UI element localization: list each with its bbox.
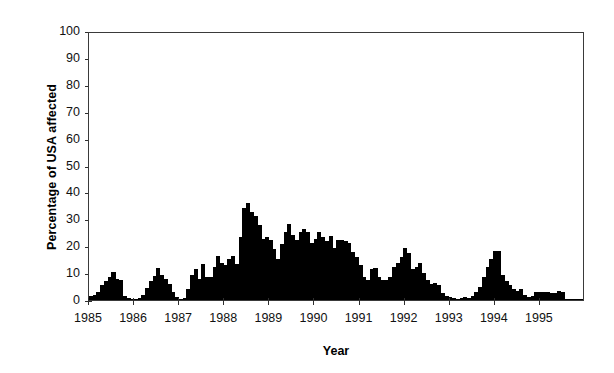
bar bbox=[516, 291, 520, 300]
bar bbox=[194, 269, 198, 300]
bar bbox=[531, 296, 535, 300]
bar bbox=[366, 280, 370, 300]
bar bbox=[403, 248, 407, 300]
bar bbox=[317, 232, 321, 300]
bar bbox=[422, 273, 426, 300]
bar bbox=[501, 275, 505, 300]
bar bbox=[385, 280, 389, 300]
bar bbox=[508, 285, 512, 300]
bar bbox=[437, 285, 441, 300]
bar bbox=[340, 240, 344, 300]
bar bbox=[123, 296, 127, 300]
bar bbox=[463, 297, 467, 300]
bar bbox=[284, 232, 288, 300]
x-tick-mark bbox=[133, 298, 134, 305]
bar bbox=[388, 277, 392, 300]
bar bbox=[572, 299, 576, 300]
bar bbox=[478, 287, 482, 300]
bar bbox=[93, 295, 97, 300]
bar bbox=[89, 296, 93, 300]
bar bbox=[272, 249, 276, 300]
bar bbox=[227, 259, 231, 300]
bar bbox=[407, 253, 411, 300]
bar bbox=[568, 299, 572, 300]
bar bbox=[325, 241, 329, 300]
bar bbox=[269, 240, 273, 300]
y-tick-label: 20 bbox=[36, 240, 80, 253]
y-tick-label: 10 bbox=[36, 267, 80, 280]
x-axis-title: Year bbox=[88, 344, 584, 358]
x-tick-mark bbox=[404, 298, 405, 305]
bar bbox=[512, 289, 516, 300]
bar bbox=[542, 292, 546, 300]
bar bbox=[489, 259, 493, 300]
bar bbox=[579, 299, 583, 300]
bar bbox=[119, 280, 123, 300]
bar bbox=[534, 292, 538, 300]
bar bbox=[332, 248, 336, 300]
bar bbox=[549, 293, 553, 300]
bar bbox=[493, 251, 497, 300]
x-tick-mark bbox=[178, 298, 179, 305]
plot-area bbox=[88, 32, 584, 301]
bar bbox=[220, 263, 224, 300]
bar bbox=[171, 292, 175, 300]
bar bbox=[145, 288, 149, 300]
bar bbox=[302, 229, 306, 300]
bar bbox=[362, 277, 366, 300]
y-tick-label: 0 bbox=[36, 294, 80, 307]
bar bbox=[418, 263, 422, 300]
y-tick-label: 80 bbox=[36, 79, 80, 92]
bar bbox=[201, 264, 205, 300]
bar bbox=[523, 295, 527, 300]
bar bbox=[224, 265, 228, 300]
bar bbox=[231, 256, 235, 300]
bar bbox=[276, 259, 280, 300]
bar bbox=[126, 298, 130, 300]
bar bbox=[179, 299, 183, 300]
x-tick-label: 1995 bbox=[512, 312, 566, 325]
bar bbox=[452, 298, 456, 300]
bar bbox=[134, 299, 138, 300]
bar bbox=[471, 296, 475, 300]
bar bbox=[295, 240, 299, 300]
bar bbox=[415, 267, 419, 300]
bar bbox=[527, 297, 531, 300]
bar bbox=[519, 289, 523, 300]
x-tick-mark bbox=[223, 298, 224, 305]
bar bbox=[198, 279, 202, 300]
bar-series bbox=[89, 33, 583, 300]
x-tick-mark bbox=[449, 298, 450, 305]
bar bbox=[433, 283, 437, 300]
bar bbox=[486, 267, 490, 300]
bar bbox=[314, 239, 318, 300]
bar bbox=[96, 292, 100, 300]
bar bbox=[564, 299, 568, 300]
bar bbox=[321, 237, 325, 300]
bar bbox=[497, 251, 501, 300]
bar bbox=[100, 285, 104, 300]
bar bbox=[108, 277, 112, 300]
bar bbox=[370, 269, 374, 300]
y-tick-label: 70 bbox=[36, 106, 80, 119]
x-tick-mark bbox=[494, 298, 495, 305]
bar bbox=[168, 284, 172, 300]
bar bbox=[115, 279, 119, 300]
y-tick-label: 30 bbox=[36, 213, 80, 226]
bar bbox=[291, 235, 295, 300]
bar bbox=[265, 237, 269, 300]
bar bbox=[460, 298, 464, 300]
bar bbox=[190, 275, 194, 300]
bar bbox=[164, 279, 168, 300]
y-tick-label: 90 bbox=[36, 52, 80, 65]
bar bbox=[430, 284, 434, 300]
y-tick-label: 50 bbox=[36, 160, 80, 173]
bar bbox=[242, 208, 246, 300]
y-tick-label: 40 bbox=[36, 186, 80, 199]
x-tick-mark bbox=[313, 298, 314, 305]
bar bbox=[306, 232, 310, 300]
bar bbox=[209, 277, 213, 300]
bar bbox=[441, 293, 445, 300]
bar bbox=[153, 276, 157, 300]
bar bbox=[347, 243, 351, 300]
